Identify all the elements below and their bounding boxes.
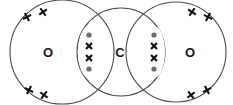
- atom-label-carbon-center: C: [115, 45, 125, 60]
- lone-pair-cross-or-br-inner: [187, 91, 194, 98]
- lone-pair-cross-ol-bl-inner: [40, 91, 47, 98]
- atom-circle-oxygen-right: [126, 2, 226, 102]
- electron-dot-bond-left-dot-top: [86, 32, 91, 37]
- atom-label-oxygen-left: O: [43, 45, 53, 60]
- molecule-canvas: OCO: [0, 0, 233, 105]
- electron-dot-bond-left-dot-bottom: [86, 66, 91, 71]
- lone-pair-cross-ol-tl-inner: [39, 8, 47, 16]
- co2-dot-cross-diagram: OCO: [0, 0, 233, 105]
- electron-dot-bond-right-dot-bottom: [151, 66, 156, 71]
- atom-label-oxygen-right: O: [185, 45, 195, 60]
- electron-dot-bond-right-dot-top: [151, 32, 156, 37]
- lone-pair-cross-or-tr-inner: [188, 8, 196, 16]
- atom-label-group: OCO: [43, 45, 195, 60]
